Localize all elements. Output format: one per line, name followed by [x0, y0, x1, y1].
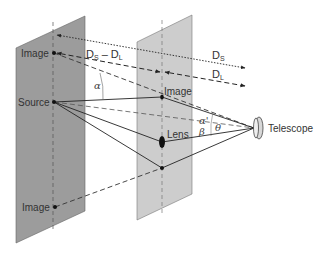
alpha-label: α: [94, 80, 101, 91]
alpha-prime-label: α': [199, 115, 209, 126]
source-point: [52, 100, 56, 104]
lens-plane: [137, 15, 192, 220]
image-top-label: Image: [21, 48, 49, 59]
ds-label: DS: [212, 49, 225, 62]
beta-label: β: [198, 126, 205, 137]
theta-label: θ: [215, 122, 221, 133]
ds-minus-dl-label: DS – DL: [86, 48, 123, 61]
lens-label: Lens: [167, 129, 189, 140]
source-label: Source: [18, 97, 50, 108]
observer-angle-arc: [211, 112, 213, 136]
lensing-diagram: Image Source Image Image Lens Telescope …: [0, 0, 323, 260]
telescope-icon: [254, 117, 264, 139]
image-point-bottom: [53, 205, 57, 209]
image-point-top: [52, 51, 56, 55]
image-bottom-label: Image: [22, 202, 50, 213]
lens-mass: [159, 136, 165, 148]
telescope-label: Telescope: [268, 123, 313, 134]
lens-image-label: Image: [164, 86, 192, 97]
dl-label: DL: [212, 68, 224, 81]
lens-lower-point: [160, 166, 164, 170]
